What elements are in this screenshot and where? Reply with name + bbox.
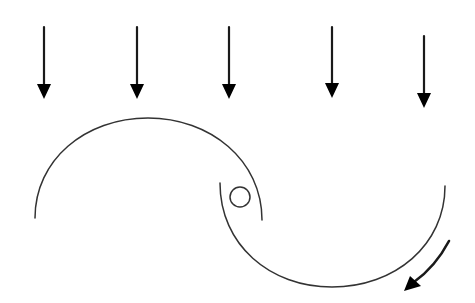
wind-arrows — [37, 27, 431, 108]
wind-arrow-2 — [130, 27, 144, 99]
hub-circle — [230, 187, 250, 207]
wind-arrow-5 — [417, 36, 431, 108]
upper-blade — [35, 118, 262, 220]
lower-blade — [220, 183, 445, 287]
rotation-arrow — [404, 241, 449, 291]
savonius-rotor-diagram — [0, 0, 475, 303]
wind-arrow-3 — [222, 27, 236, 99]
wind-arrow-4 — [325, 27, 339, 98]
wind-arrow-1 — [37, 27, 51, 99]
